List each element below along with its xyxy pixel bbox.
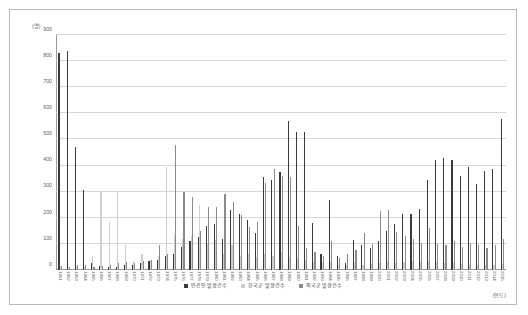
- x-axis-tick-label: 1985: [254, 271, 258, 281]
- y-axis-unit-label: (명): [32, 24, 40, 29]
- bar: [102, 266, 103, 270]
- bar: [233, 202, 234, 270]
- legend-label: 민간인 발생건수: [191, 283, 227, 288]
- bar: [476, 184, 477, 270]
- chart-legend: 민간인 발생건수한국군 발생건수외국군 발생건수: [10, 283, 516, 288]
- bar: [413, 239, 414, 270]
- x-axis-tick-label: 1989: [287, 271, 291, 281]
- bar-group: [179, 35, 187, 270]
- plot-area: 0100200300400500600700800900: [56, 35, 506, 270]
- legend-item[interactable]: 민간인 발생건수: [184, 283, 227, 288]
- bar-group: [400, 35, 408, 270]
- bar: [257, 222, 258, 270]
- bar: [470, 243, 471, 270]
- x-axis-tick-label: 2010: [459, 271, 463, 281]
- bar: [85, 265, 86, 270]
- legend-item[interactable]: 외국군 발생건수: [299, 283, 342, 288]
- bar-group: [154, 35, 162, 270]
- bar-group: [457, 35, 465, 270]
- bar-series-container: [56, 35, 506, 270]
- x-axis-tick-label: 2008: [443, 271, 447, 281]
- legend-item[interactable]: 한국군 발생건수: [241, 283, 284, 288]
- bar-group: [334, 35, 342, 270]
- x-axis-tick-label: 1974: [164, 271, 168, 281]
- bar-group: [220, 35, 228, 270]
- bar: [126, 262, 127, 270]
- x-axis-tick-label: 1981: [222, 271, 226, 281]
- y-axis-tick-label: 600: [43, 106, 52, 111]
- bar: [167, 254, 168, 270]
- x-axis-tick-label: 1967: [107, 271, 111, 281]
- x-axis-tick-label: 2006: [426, 271, 430, 281]
- bar: [329, 200, 330, 271]
- x-axis-tick-label: 2001: [385, 271, 389, 281]
- bar: [93, 267, 94, 270]
- x-axis-tick-label: 1995: [336, 271, 340, 281]
- bar: [437, 244, 438, 270]
- x-axis-tick-label: 1996: [344, 271, 348, 281]
- bar: [298, 226, 299, 270]
- bar-group: [343, 35, 351, 270]
- bar: [364, 233, 365, 270]
- bar: [468, 167, 469, 270]
- bar-group: [482, 35, 490, 270]
- bar-group: [253, 35, 261, 270]
- x-axis-tick-label: 2005: [418, 271, 422, 281]
- bar: [355, 250, 356, 270]
- bar-group: [228, 35, 236, 270]
- x-axis-tick-label: 1992: [312, 271, 316, 281]
- bar: [347, 254, 348, 270]
- bar-group: [367, 35, 375, 270]
- bar: [241, 215, 242, 270]
- x-axis-tick-label: 1961: [58, 271, 62, 281]
- y-axis-tick-label: 800: [43, 53, 52, 58]
- bar: [290, 177, 291, 270]
- bar: [380, 211, 381, 270]
- x-axis-tick-label: 2014: [492, 271, 496, 281]
- bar: [224, 194, 225, 270]
- bar: [192, 197, 193, 270]
- bar-group: [293, 35, 301, 270]
- bar: [405, 236, 406, 270]
- bar: [117, 192, 118, 270]
- x-axis-tick-label: 1971: [140, 271, 144, 281]
- legend-swatch: [184, 284, 188, 288]
- y-axis-tick-label: 500: [43, 132, 52, 137]
- bar-group: [408, 35, 416, 270]
- bar-group: [64, 35, 72, 270]
- x-axis-tick-label: 2007: [435, 271, 439, 281]
- x-axis-tick-label: 1978: [197, 271, 201, 281]
- x-axis-tick-label: 1998: [361, 271, 365, 281]
- chart-frame: (명) 0100200300400500600700800900 1961196…: [9, 9, 517, 305]
- bar: [100, 192, 101, 270]
- bar-group: [146, 35, 154, 270]
- bar-group: [81, 35, 89, 270]
- bar-group: [490, 35, 498, 270]
- y-axis-tick-label: 900: [43, 27, 52, 32]
- bar-group: [433, 35, 441, 270]
- bar: [143, 261, 144, 270]
- bar-group: [351, 35, 359, 270]
- bar-group: [89, 35, 97, 270]
- bar: [339, 258, 340, 270]
- bar-group: [285, 35, 293, 270]
- bar: [478, 245, 479, 270]
- y-axis-tick-label: 0: [49, 262, 52, 267]
- x-axis-tick-label: 1990: [295, 271, 299, 281]
- bar-group: [277, 35, 285, 270]
- bar: [304, 132, 305, 270]
- x-axis-tick-label: 1997: [353, 271, 357, 281]
- bar-group: [326, 35, 334, 270]
- bar: [492, 169, 493, 270]
- bar: [296, 132, 297, 270]
- bar-group: [318, 35, 326, 270]
- bar: [484, 171, 485, 270]
- bar: [445, 245, 446, 270]
- bar: [67, 51, 68, 270]
- bar-group: [474, 35, 482, 270]
- bar-group: [97, 35, 105, 270]
- bar-group: [203, 35, 211, 270]
- bar-group: [384, 35, 392, 270]
- bar: [216, 207, 217, 270]
- bar-group: [498, 35, 506, 270]
